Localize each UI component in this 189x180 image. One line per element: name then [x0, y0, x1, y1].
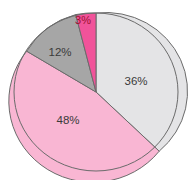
pie-label-12: 12% — [38, 46, 82, 58]
pie-label-48: 48% — [44, 114, 92, 126]
pie-chart-figure: 36% 48% 12% 3% — [0, 0, 189, 180]
pie-chart-graphic — [0, 0, 189, 180]
pie-label-3: 3% — [69, 14, 97, 26]
pie-label-36: 36% — [112, 75, 160, 87]
